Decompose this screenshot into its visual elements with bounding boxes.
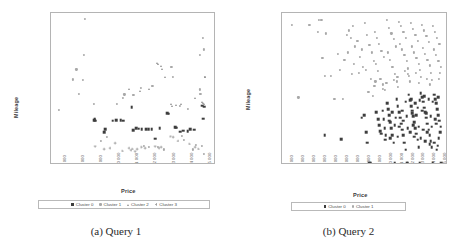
scatter-point xyxy=(100,140,102,142)
scatter-point xyxy=(94,145,97,148)
scatter-point xyxy=(130,106,133,109)
scatter-point xyxy=(380,133,383,136)
scatter-point xyxy=(415,57,417,59)
scatter-point xyxy=(154,145,157,148)
legend-item[interactable]: Cluster 1 xyxy=(352,204,374,209)
x-axis-tick-mark xyxy=(419,163,420,164)
y-axis-tick-mark xyxy=(50,34,51,35)
scatter-point xyxy=(410,98,413,101)
scatter-point xyxy=(342,98,344,100)
scatter-point xyxy=(325,32,327,34)
scatter-point xyxy=(321,57,323,59)
legend-label: Cluster 0 xyxy=(76,202,94,207)
scatter-point xyxy=(406,162,409,164)
subfigure-query-2: Mileage 010 00020 00030 00040 00050 0006… xyxy=(232,0,465,241)
legend-item[interactable]: Cluster 0 xyxy=(324,204,346,209)
scatter-point xyxy=(202,37,204,39)
scatter-point xyxy=(317,31,319,33)
scatter-point xyxy=(378,124,381,127)
scatter-point xyxy=(365,131,368,134)
y-axis-tick-mark xyxy=(281,46,282,47)
legend-item[interactable]: Cluster 3 xyxy=(155,202,177,207)
scatter-point xyxy=(375,111,378,114)
scatter-point xyxy=(399,117,402,120)
x-axis-tick-label: 13 000 xyxy=(420,153,425,164)
scatter-point xyxy=(380,50,382,52)
x-axis-tick-label: 11 000 xyxy=(134,153,139,164)
scatter-point xyxy=(140,128,143,131)
legend-label: Cluster 0 xyxy=(328,204,346,209)
x-axis-tick-label: 10 000 xyxy=(116,153,121,164)
scatter-point xyxy=(392,141,395,144)
scatter-point xyxy=(404,149,407,152)
scatter-point xyxy=(408,93,411,96)
x-axis-tick-mark xyxy=(287,163,288,164)
scatter-point xyxy=(188,142,191,145)
legend-item[interactable]: Cluster 2 xyxy=(127,202,149,207)
scatter-point xyxy=(369,162,372,164)
scatter-point xyxy=(75,68,77,70)
scatter-point xyxy=(337,53,339,55)
scatter-point xyxy=(401,48,403,50)
scatter-point xyxy=(385,134,388,137)
scatter-point xyxy=(418,99,421,102)
x-axis-tick-mark xyxy=(430,163,431,164)
scatter-point xyxy=(403,141,406,144)
scatter-point xyxy=(103,148,106,151)
chart-query-2: Mileage 010 00020 00030 00040 00050 0006… xyxy=(232,0,465,213)
scatter-point xyxy=(422,47,424,49)
scatter-point xyxy=(183,139,185,141)
y-axis-tick-mark xyxy=(50,120,51,121)
legend-item[interactable]: Cluster 1 xyxy=(99,202,121,207)
scatter-point xyxy=(435,149,438,152)
scatter-point xyxy=(178,105,180,107)
scatter-point xyxy=(402,31,404,33)
scatter-point xyxy=(389,59,391,61)
scatter-point xyxy=(363,114,366,117)
scatter-point xyxy=(373,85,375,87)
scatter-point xyxy=(324,75,326,77)
scatter-point xyxy=(428,143,431,146)
y-axis-tick-mark xyxy=(281,163,282,164)
scatter-point xyxy=(434,31,436,33)
legend-item[interactable]: Cluster 0 xyxy=(71,202,93,207)
scatter-point xyxy=(393,162,396,164)
scatter-point xyxy=(416,138,419,141)
legend-label: Cluster 1 xyxy=(104,202,122,207)
scatter-point xyxy=(198,54,200,56)
scatter-point xyxy=(393,124,396,127)
scatter-point xyxy=(429,83,431,85)
scatter-point xyxy=(418,63,420,65)
scatter-point xyxy=(435,54,437,56)
scatter-point xyxy=(139,90,141,92)
scatter-point xyxy=(439,131,442,134)
scatter-point xyxy=(172,136,175,139)
x-axis-tick-label: 7 000 xyxy=(62,155,67,164)
x-axis-tick-label: 14 000 xyxy=(189,153,194,164)
legend-label: Cluster 2 xyxy=(131,202,149,207)
scatter-point xyxy=(128,88,130,90)
scatter-point xyxy=(83,18,85,20)
x-axis-tick-label: 13 000 xyxy=(171,153,176,164)
scatter-point xyxy=(437,144,440,147)
scatter-point xyxy=(427,41,429,43)
scatter-point xyxy=(426,59,428,61)
subfigure-caption: (a) Query 1 xyxy=(0,225,232,237)
scatter-point xyxy=(164,76,166,78)
scatter-point xyxy=(361,117,364,120)
x-axis-tick-mark xyxy=(96,163,97,164)
x-axis-tick-mark xyxy=(342,163,343,164)
scatter-point xyxy=(157,63,159,65)
scatter-point xyxy=(420,137,423,140)
scatter-point xyxy=(203,153,205,155)
y-axis-tick-mark xyxy=(50,163,51,164)
x-axis-tick-mark xyxy=(441,163,442,164)
scatter-point xyxy=(416,106,419,109)
scatter-point xyxy=(405,115,408,118)
subfigure-query-1: Mileage 020 00040 00060 00080 000100 000… xyxy=(0,0,232,241)
legend-query-1: Cluster 0Cluster 1Cluster 2Cluster 3 xyxy=(38,200,210,209)
scatter-point xyxy=(397,135,400,138)
scatter-point xyxy=(180,103,182,105)
scatter-point xyxy=(386,19,388,21)
scatter-point xyxy=(333,98,335,100)
